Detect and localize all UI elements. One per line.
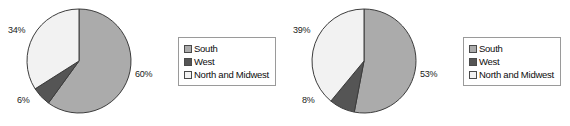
legend-swatch-north-and-midwest-icon [184, 71, 192, 79]
pie-label-south-left: 60% [135, 70, 152, 79]
legend-swatch-north-and-midwest-icon [469, 71, 477, 79]
legend-label-north-and-midwest: North and Midwest [194, 70, 269, 80]
legend-label-south: South [194, 44, 218, 54]
legend-label-west: West [479, 57, 499, 67]
legend-swatch-west-icon [469, 58, 477, 66]
pie-chart-left [26, 8, 132, 114]
pie-chart-right [311, 8, 417, 114]
legend-item-north-and-midwest: North and Midwest [469, 68, 556, 81]
pie-chart-panel-right: 39% 8% 53% South West North and Midwest [285, 0, 570, 126]
legend-label-west: West [194, 57, 214, 67]
legend-item-west: West [469, 55, 556, 68]
pie-label-west-left: 6% [17, 96, 30, 105]
pie-label-north-and-midwest-left: 34% [8, 26, 25, 35]
pie-chart-right-svg [311, 8, 417, 114]
legend-swatch-south-icon [469, 45, 477, 53]
pie-slices-right [312, 9, 416, 113]
legend-swatch-south-icon [184, 45, 192, 53]
legend-item-west: West [184, 55, 271, 68]
legend-label-south: South [479, 44, 503, 54]
pie-chart-panel-left: 34% 6% 60% South West North and Midwest [0, 0, 285, 126]
pie-label-north-and-midwest-right: 39% [293, 26, 310, 35]
legend-item-north-and-midwest: North and Midwest [184, 68, 271, 81]
pie-chart-left-svg [26, 8, 132, 114]
legend-item-south: South [469, 42, 556, 55]
pie-slices-left [27, 9, 131, 113]
legend-label-north-and-midwest: North and Midwest [479, 70, 554, 80]
pie-label-south-right: 53% [420, 70, 437, 79]
legend-swatch-west-icon [184, 58, 192, 66]
pie-label-west-right: 8% [302, 96, 315, 105]
legend-right: South West North and Midwest [463, 37, 561, 86]
legend-item-south: South [184, 42, 271, 55]
legend-left: South West North and Midwest [178, 37, 276, 86]
